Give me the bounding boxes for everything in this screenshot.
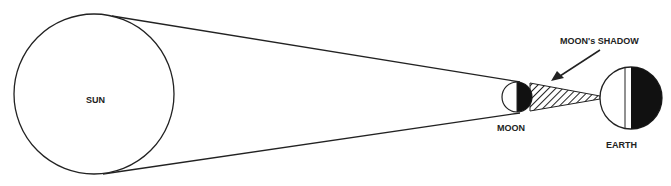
moons-shadow-label: MOON's SHADOW — [560, 36, 639, 46]
shadow-arrow-head — [551, 71, 564, 81]
shadow-arrow-shaft — [560, 50, 600, 76]
earth-label: EARTH — [606, 140, 637, 150]
moons-shadow-cone — [530, 83, 600, 111]
sun-circle — [14, 14, 174, 174]
moon-label: MOON — [497, 123, 525, 133]
eclipse-diagram: SUN MOON EARTH MOON's SHADOW — [0, 0, 671, 186]
upper-tangent-line — [112, 16, 520, 82]
sun-label: SUN — [86, 95, 105, 105]
